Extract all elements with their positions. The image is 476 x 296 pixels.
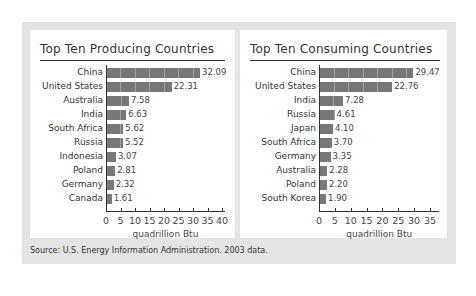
bar-value-label: 2.20 [329,179,348,190]
bar-value-label: 2.32 [116,179,135,190]
x-tick [222,208,223,211]
x-tick [382,208,383,211]
bar [107,138,123,148]
x-tick-label: 30 [187,215,199,226]
x-tick-label: 20 [376,215,388,226]
category-label: Poland [73,165,103,176]
x-tick-label: 15 [361,215,373,226]
bar [320,166,327,176]
x-tick-label: 25 [392,215,404,226]
x-axis [319,211,439,212]
category-label: South Africa [261,137,316,148]
bar-value-label: 7.28 [345,95,364,106]
bar-value-label: 4.10 [335,123,354,134]
category-label: Germany [62,179,103,190]
x-tick-label: 35 [424,215,436,226]
category-label: Australia [63,95,103,106]
x-tick-label: 5 [117,215,123,226]
bar-value-label: 4.61 [337,109,356,120]
x-tick [164,208,165,211]
bar [320,138,332,148]
bar [107,68,200,78]
bar-value-label: 22.76 [394,81,418,92]
x-tick [179,208,180,211]
title-rule [40,60,225,61]
x-tick [414,208,415,211]
bar [320,152,331,162]
x-tick-label: 25 [172,215,184,226]
title-rule [250,60,440,61]
bar [320,110,335,120]
chart-title: Top Ten Consuming Countries [250,42,432,56]
bar [107,82,172,92]
chart-frame: Top Ten Producing Countries 051015202530… [22,22,456,264]
category-label: India [294,95,316,106]
bar [107,96,129,106]
x-tick [367,208,368,211]
category-label: China [290,67,316,78]
x-tick-label: 35 [201,215,213,226]
bar-value-label: 3.35 [333,151,352,162]
x-tick [121,208,122,211]
category-label: South Korea [261,193,316,204]
x-tick-label: 15 [143,215,155,226]
bar [107,180,114,190]
category-label: India [81,109,103,120]
bar [320,96,343,106]
x-tick [335,208,336,211]
category-label: Japan [291,123,316,134]
category-label: United States [255,81,316,92]
x-tick-label: 10 [345,215,357,226]
consuming-chart-panel: Top Ten Consuming Countries 051015202530… [240,30,447,238]
x-tick [208,208,209,211]
bar-value-label: 3.70 [334,137,353,148]
category-label: Australia [276,165,316,176]
bar [320,124,333,134]
x-tick [135,208,136,211]
bar [320,68,413,78]
x-tick-label: 10 [129,215,141,226]
x-tick [150,208,151,211]
bar [320,194,326,204]
bar [107,124,123,134]
bar-value-label: 22.31 [174,81,198,92]
x-tick-label: 20 [158,215,170,226]
category-label: China [77,67,103,78]
bar [107,152,116,162]
x-tick [351,208,352,211]
bar-value-label: 2.81 [117,165,136,176]
bar-value-label: 1.90 [328,193,347,204]
category-label: Indonesia [59,151,103,162]
x-tick-label: 0 [103,215,109,226]
bar [320,82,392,92]
x-tick [319,208,320,211]
bar-value-label: 29.47 [415,67,439,78]
category-label: Poland [286,179,316,190]
bar-value-label: 5.52 [125,137,144,148]
x-tick-label: 40 [216,215,228,226]
bar-value-label: 1.61 [114,193,133,204]
bar [320,180,327,190]
bar [107,110,126,120]
x-tick [106,208,107,211]
producing-chart-panel: Top Ten Producing Countries 051015202530… [30,30,235,238]
x-tick [430,208,431,211]
bar-value-label: 7.58 [131,95,150,106]
x-tick-label: 5 [332,215,338,226]
bar-value-label: 2.28 [329,165,348,176]
x-axis-label: quadrillion Btu [133,229,199,239]
x-tick [398,208,399,211]
bar [107,166,115,176]
x-tick [193,208,194,211]
x-tick-label: 0 [316,215,322,226]
bar [107,194,112,204]
x-tick-label: 30 [408,215,420,226]
bar-value-label: 32.09 [202,67,226,78]
category-label: United States [42,81,103,92]
bar-value-label: 3.07 [118,151,137,162]
category-label: Russia [74,137,103,148]
bar-value-label: 6.63 [128,109,147,120]
x-axis-label: quadrillion Btu [346,229,412,239]
chart-title: Top Ten Producing Countries [40,42,214,56]
category-label: Russia [287,109,316,120]
